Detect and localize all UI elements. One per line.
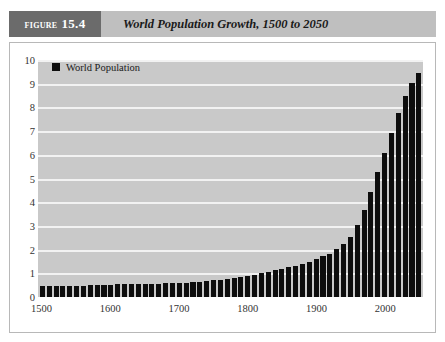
bar bbox=[259, 273, 264, 297]
x-axis-tick-label: 1500 bbox=[31, 303, 52, 314]
x-axis-tick-label: 2000 bbox=[375, 303, 396, 314]
x-axis-tick-label: 1900 bbox=[306, 303, 327, 314]
bar bbox=[67, 286, 72, 297]
bar bbox=[47, 286, 52, 297]
bar bbox=[136, 284, 141, 297]
y-axis-tick-label: 7 bbox=[30, 126, 35, 137]
y-axis-tick-label: 5 bbox=[30, 173, 35, 184]
bar bbox=[403, 96, 408, 297]
bar bbox=[320, 256, 325, 297]
figure-label-word: Figure bbox=[25, 18, 58, 30]
bar bbox=[74, 286, 79, 297]
figure-banner: Figure 15.4 World Population Growth, 150… bbox=[9, 11, 436, 37]
bar bbox=[129, 284, 134, 297]
bar bbox=[416, 73, 421, 297]
bar bbox=[307, 262, 312, 297]
bar bbox=[273, 270, 278, 297]
bar bbox=[177, 283, 182, 297]
bar bbox=[149, 284, 154, 297]
y-axis-tick-label: 9 bbox=[30, 78, 35, 89]
y-axis-tick-label: 2 bbox=[30, 244, 35, 255]
figure-container: Figure 15.4 World Population Growth, 150… bbox=[0, 0, 445, 342]
bar bbox=[389, 133, 394, 297]
bar bbox=[54, 286, 59, 297]
bar bbox=[211, 280, 216, 297]
figure-number-tab: Figure 15.4 bbox=[9, 11, 101, 37]
y-axis-tick-label: 10 bbox=[25, 55, 36, 66]
bar bbox=[184, 283, 189, 297]
bar bbox=[101, 285, 106, 297]
figure-title: World Population Growth, 1500 to 2050 bbox=[101, 11, 436, 37]
x-axis-tick-label: 1700 bbox=[168, 303, 189, 314]
bar bbox=[300, 264, 305, 297]
legend-label: World Population bbox=[66, 62, 140, 73]
bar bbox=[293, 266, 298, 297]
bar bbox=[122, 284, 127, 297]
bar bbox=[170, 283, 175, 297]
bar bbox=[60, 286, 65, 297]
bar bbox=[286, 267, 291, 297]
bar bbox=[375, 172, 380, 297]
y-axis-labels: 012345678910 bbox=[9, 60, 35, 297]
bar-series-world-population bbox=[38, 60, 423, 297]
bar bbox=[197, 282, 202, 297]
figure-label-number: 15.4 bbox=[61, 16, 85, 32]
bar bbox=[245, 276, 250, 297]
x-axis-tick-label: 1800 bbox=[237, 303, 258, 314]
y-axis-tick-label: 8 bbox=[30, 102, 35, 113]
bar bbox=[341, 244, 346, 297]
bar bbox=[327, 254, 332, 297]
bar bbox=[362, 210, 367, 297]
bar bbox=[108, 285, 113, 297]
y-axis-tick-label: 6 bbox=[30, 149, 35, 160]
bar bbox=[266, 272, 271, 297]
plot-area bbox=[38, 60, 423, 297]
bar bbox=[218, 280, 223, 297]
bar bbox=[40, 286, 45, 297]
bar bbox=[225, 279, 230, 297]
bar bbox=[163, 283, 168, 297]
bar bbox=[190, 282, 195, 297]
chart-legend: World Population bbox=[52, 60, 140, 74]
x-axis-labels: 150016001700180019002000 bbox=[38, 303, 423, 321]
bar bbox=[368, 192, 373, 297]
bar bbox=[115, 284, 120, 297]
bar bbox=[95, 285, 100, 297]
bar bbox=[238, 277, 243, 297]
plot-wrapper bbox=[38, 60, 423, 297]
y-axis-tick-label: 0 bbox=[30, 292, 35, 303]
y-axis-tick-label: 3 bbox=[30, 220, 35, 231]
bar bbox=[348, 237, 353, 297]
bar bbox=[382, 153, 387, 297]
bar bbox=[232, 278, 237, 297]
y-axis-tick-label: 1 bbox=[30, 268, 35, 279]
bar bbox=[88, 285, 93, 297]
bar bbox=[396, 113, 401, 297]
bar bbox=[156, 284, 161, 298]
bar bbox=[279, 269, 284, 297]
bar bbox=[143, 284, 148, 297]
x-axis-tick-label: 1600 bbox=[100, 303, 121, 314]
bar bbox=[204, 281, 209, 297]
bar bbox=[252, 275, 257, 298]
legend-swatch-icon bbox=[52, 63, 60, 71]
bar bbox=[81, 286, 86, 297]
bar bbox=[355, 225, 360, 297]
y-axis-tick-label: 4 bbox=[30, 197, 35, 208]
bar bbox=[314, 259, 319, 297]
bar bbox=[334, 249, 339, 297]
bar bbox=[409, 83, 414, 297]
